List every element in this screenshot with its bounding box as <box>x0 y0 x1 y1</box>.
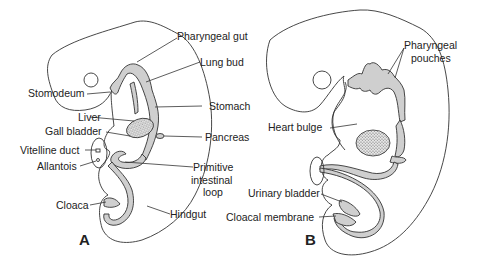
label-pharyngeal-gut: Pharyngeal gut <box>177 30 248 42</box>
label-pancreas: Pancreas <box>205 131 249 143</box>
otic-placode-a <box>84 73 98 87</box>
leader-pancreas <box>164 136 202 137</box>
embryo-gut-diagram: Pharyngeal gut Lung bud Stomodeum Stomac… <box>0 0 477 264</box>
label-lung-bud: Lung bud <box>200 56 244 68</box>
leader-heart-bulge <box>330 124 357 128</box>
label-heart-bulge: Heart bulge <box>268 121 322 133</box>
panel-label-a: A <box>79 231 90 248</box>
leader-pharyngeal-gut <box>137 38 177 62</box>
leader-pharyngeal-pouches-1 <box>388 48 404 74</box>
hindgut-shape <box>104 162 134 225</box>
label-primitive-intestinal-loop-2: intestinal <box>191 174 232 186</box>
leader-lung-bud <box>146 62 200 82</box>
pharyngeal-pouches-shape <box>348 63 405 122</box>
lung-bud-shape <box>130 82 138 114</box>
pharyngeal-gut-shape <box>110 64 159 160</box>
label-allantois: Allantois <box>37 160 77 172</box>
label-primitive-intestinal-loop-3: loop <box>203 186 223 198</box>
vitelline-duct-mark <box>96 149 100 152</box>
intestinal-loop-shape <box>111 151 146 168</box>
label-stomodeum: Stomodeum <box>28 87 85 99</box>
panel-label-b: B <box>305 231 316 248</box>
label-vitelline-duct: Vitelline duct <box>20 144 79 156</box>
pancreas-b-shape <box>390 156 406 163</box>
label-gall-bladder: Gall bladder <box>45 125 102 137</box>
label-liver: Liver <box>78 111 101 123</box>
leader-hindgut <box>147 206 170 214</box>
leader-stomach <box>155 106 202 107</box>
label-stomach: Stomach <box>209 100 251 112</box>
label-cloaca: Cloaca <box>56 199 89 211</box>
panel-b: Pharyngeal pouches Heart bulge Urinary b… <box>226 10 457 255</box>
cloaca-shape <box>104 198 120 207</box>
leader-cloacal-membrane <box>319 216 336 217</box>
leader-pharyngeal-pouches-2 <box>395 48 404 78</box>
umbilical-stalk-a <box>91 138 107 168</box>
label-cloacal-membrane: Cloacal membrane <box>226 211 314 223</box>
foregut-b-shape <box>395 120 405 157</box>
liver-b-shape <box>356 130 390 156</box>
label-hindgut: Hindgut <box>170 208 206 220</box>
pancreas-shape <box>156 134 164 139</box>
allantois-mark <box>97 159 100 162</box>
label-pharyngeal-pouches-2: pouches <box>411 52 451 64</box>
otic-placode-b <box>313 71 331 89</box>
leader-stomodeum <box>87 92 110 94</box>
label-primitive-intestinal-loop-1: Primitive <box>193 161 233 173</box>
label-pharyngeal-pouches-1: Pharyngeal <box>404 39 457 51</box>
panel-a: Pharyngeal gut Lung bud Stomodeum Stomac… <box>20 21 251 248</box>
label-urinary-bladder: Urinary bladder <box>248 187 320 199</box>
